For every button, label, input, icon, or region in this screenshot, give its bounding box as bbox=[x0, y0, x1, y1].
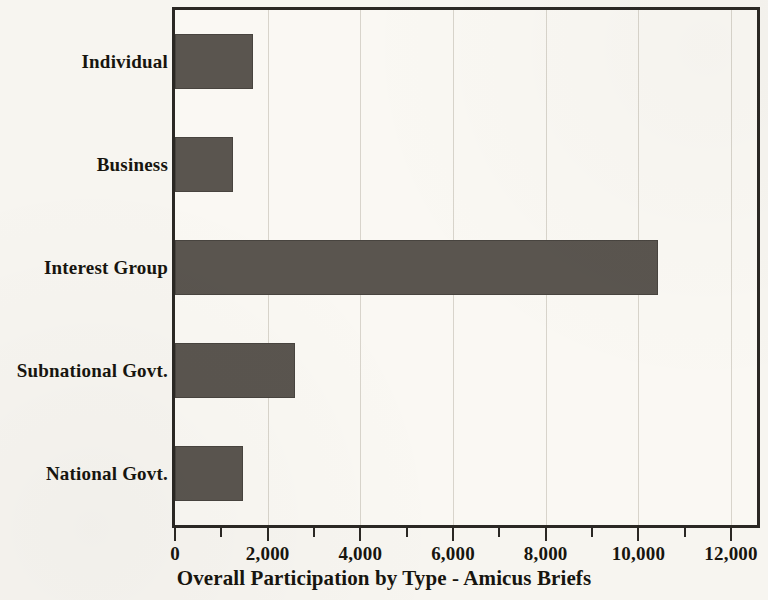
bar bbox=[175, 137, 233, 192]
x-axis-title: Overall Participation by Type - Amicus B… bbox=[0, 566, 768, 591]
y-axis-tick-label: Interest Group bbox=[0, 257, 168, 279]
x-axis-minor-tick bbox=[684, 528, 686, 537]
plot-area bbox=[175, 10, 757, 525]
x-axis-tick-label: 4,000 bbox=[338, 543, 382, 565]
y-axis-tick-label: Business bbox=[0, 154, 168, 176]
plot-frame bbox=[172, 7, 760, 528]
x-axis-minor-tick bbox=[313, 528, 315, 537]
bar bbox=[175, 240, 658, 295]
x-axis-major-tick bbox=[730, 528, 732, 541]
x-axis-minor-tick bbox=[498, 528, 500, 537]
y-axis-tick-label: Individual bbox=[0, 51, 168, 73]
y-axis-tick-label: Subnational Govt. bbox=[0, 360, 168, 382]
x-axis-tick-label: 10,000 bbox=[612, 543, 665, 565]
x-axis-major-tick bbox=[359, 528, 361, 541]
x-axis-major-tick bbox=[545, 528, 547, 541]
x-axis-minor-tick bbox=[406, 528, 408, 537]
x-axis-major-tick bbox=[174, 528, 176, 541]
x-axis-tick-label: 2,000 bbox=[246, 543, 290, 565]
x-axis-tick-label: 0 bbox=[170, 543, 180, 565]
x-axis-major-tick bbox=[452, 528, 454, 541]
y-axis-tick-label: National Govt. bbox=[0, 463, 168, 485]
x-axis-major-tick bbox=[637, 528, 639, 541]
bar bbox=[175, 446, 243, 501]
x-axis-minor-tick bbox=[591, 528, 593, 537]
gridline bbox=[731, 10, 732, 525]
x-axis-tick-label: 6,000 bbox=[431, 543, 475, 565]
bar bbox=[175, 343, 295, 398]
bar bbox=[175, 34, 253, 89]
x-axis-tick-label: 12,000 bbox=[704, 543, 757, 565]
x-axis-tick-label: 8,000 bbox=[524, 543, 568, 565]
x-axis-major-tick bbox=[267, 528, 269, 541]
x-axis-minor-tick bbox=[220, 528, 222, 537]
bar-chart-figure: IndividualBusinessInterest GroupSubnatio… bbox=[0, 0, 768, 600]
